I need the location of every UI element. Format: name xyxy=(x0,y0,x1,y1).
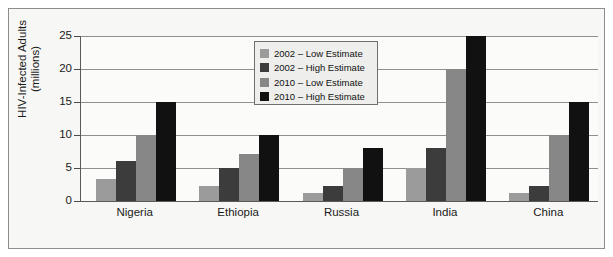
legend-item: 2010 – Low Estimate xyxy=(260,75,372,90)
legend-item-label: 2010 – Low Estimate xyxy=(274,77,363,88)
bar xyxy=(116,161,136,201)
legend-swatch-icon xyxy=(260,49,269,58)
x-tick-label: Russia xyxy=(282,206,402,218)
bar xyxy=(303,193,323,201)
bar xyxy=(426,148,446,201)
legend-item: 2002 – Low Estimate xyxy=(260,46,372,61)
bar xyxy=(446,69,466,201)
bar xyxy=(96,179,116,201)
legend-item: 2002 – High Estimate xyxy=(260,61,372,76)
bar-group xyxy=(509,36,589,201)
x-tick-label: Nigeria xyxy=(75,206,195,218)
x-tick-label: Ethiopia xyxy=(178,206,298,218)
bar xyxy=(363,148,383,201)
y-tick-label: 15 xyxy=(46,95,72,107)
legend-item-label: 2002 – Low Estimate xyxy=(274,48,363,59)
y-tick-label: 5 xyxy=(46,161,72,173)
bar xyxy=(323,186,343,201)
y-axis-tick-labels: 0510152025 xyxy=(44,0,72,257)
bar xyxy=(199,186,219,201)
y-tick-label: 10 xyxy=(46,128,72,140)
bar xyxy=(529,186,549,201)
y-axis-title: HIV-Infected Adults (millions) xyxy=(16,0,42,154)
bar xyxy=(549,135,569,201)
legend-item-label: 2010 – High Estimate xyxy=(274,91,365,102)
bar xyxy=(509,193,529,201)
bar-group xyxy=(96,36,176,201)
y-tick-label: 20 xyxy=(46,62,72,74)
bar xyxy=(343,168,363,201)
legend-item-label: 2002 – High Estimate xyxy=(274,62,365,73)
legend-item: 2010 – High Estimate xyxy=(260,90,372,105)
y-tick-label: 0 xyxy=(46,194,72,206)
bar-group xyxy=(406,36,486,201)
bar xyxy=(136,135,156,201)
bar xyxy=(569,102,589,201)
y-tick-label: 25 xyxy=(46,29,72,41)
chart-figure: HIV-Infected Adults (millions) 051015202… xyxy=(0,0,613,257)
bar xyxy=(156,102,176,201)
x-tick-label: China xyxy=(488,206,608,218)
legend-swatch-icon xyxy=(260,78,269,87)
bar xyxy=(259,135,279,201)
bar xyxy=(219,168,239,201)
x-tick-label: India xyxy=(385,206,505,218)
bar xyxy=(239,154,259,201)
chart-legend: 2002 – Low Estimate2002 – High Estimate2… xyxy=(254,41,378,105)
legend-swatch-icon xyxy=(260,63,269,72)
legend-swatch-icon xyxy=(260,92,269,101)
bar xyxy=(466,36,486,201)
bar xyxy=(406,168,426,201)
